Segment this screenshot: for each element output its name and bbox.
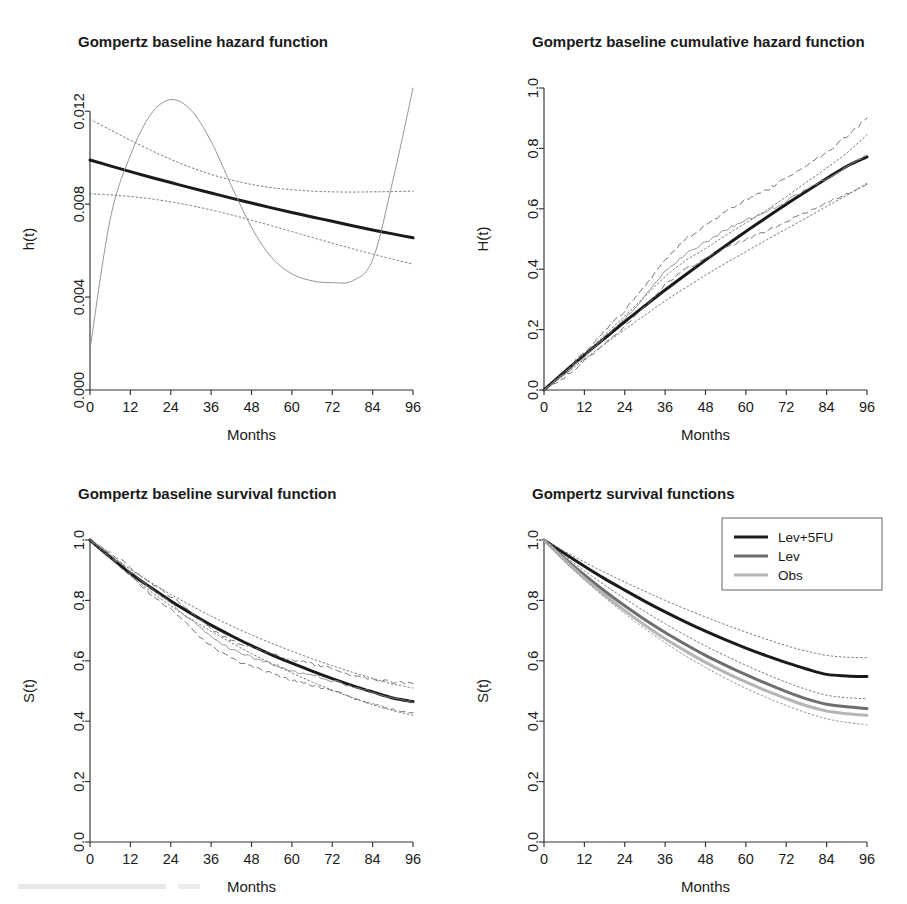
x-tick-label: 60 [738, 399, 754, 415]
y-tick-label: 0.8 [71, 590, 87, 610]
panel-survival-functions-svg: Gompertz survival functions0.00.20.40.60… [454, 452, 907, 904]
figure-canvas: Gompertz baseline hazard function0.0000.… [0, 0, 907, 904]
y-tick-label: 0.4 [71, 711, 87, 731]
x-tick-label: 36 [203, 399, 219, 415]
x-tick-label: 96 [405, 399, 421, 415]
x-tick-label: 12 [122, 399, 138, 415]
x-tick-label: 24 [163, 399, 179, 415]
series-line [90, 540, 413, 713]
x-tick-label: 72 [324, 399, 340, 415]
plot-area [90, 540, 413, 715]
x-tick-label: 24 [617, 851, 633, 867]
x-tick-label: 60 [738, 851, 754, 867]
legend-label: Lev+5FU [778, 530, 833, 545]
y-tick-label: 0.4 [525, 711, 541, 731]
panel-title: Gompertz baseline hazard function [78, 33, 328, 50]
x-tick-label: 72 [778, 399, 794, 415]
x-tick-label: 48 [243, 851, 259, 867]
x-tick-label: 48 [697, 399, 713, 415]
panel-title: Gompertz survival functions [532, 485, 735, 502]
series-line [544, 184, 867, 390]
y-axis-title: h(t) [20, 228, 37, 251]
legend-label: Lev [778, 549, 800, 564]
y-tick-label: 0.6 [71, 651, 87, 671]
x-tick-label: 12 [576, 399, 592, 415]
panel-hazard: Gompertz baseline hazard function0.0000.… [0, 0, 453, 452]
y-tick-label: 0.0 [525, 832, 541, 852]
x-tick-label: 36 [203, 851, 219, 867]
y-axis-title: S(t) [474, 679, 491, 703]
y-tick-label: 0.012 [71, 93, 87, 129]
chart-legend: Lev+5FULevObs [722, 518, 882, 590]
series-line [90, 540, 413, 703]
panel-hazard-svg: Gompertz baseline hazard function0.0000.… [0, 0, 453, 452]
x-tick-label: 84 [365, 399, 381, 415]
x-tick-label: 36 [657, 851, 673, 867]
panel-title: Gompertz baseline cumulative hazard func… [532, 33, 865, 50]
plot-area [544, 118, 867, 390]
x-axis-title: Months [681, 426, 730, 443]
y-tick-label: 0.0 [71, 832, 87, 852]
x-tick-label: 24 [163, 851, 179, 867]
scan-artifact-secondary [178, 884, 200, 889]
x-tick-label: 60 [284, 399, 300, 415]
y-tick-label: 0.000 [71, 372, 87, 408]
x-tick-label: 0 [540, 851, 548, 867]
series-line [90, 540, 413, 684]
x-tick-label: 0 [86, 399, 94, 415]
y-tick-label: 0.8 [525, 590, 541, 610]
y-tick-label: 0.6 [525, 651, 541, 671]
y-tick-label: 0.8 [525, 138, 541, 158]
y-tick-label: 1.0 [525, 530, 541, 550]
x-tick-label: 96 [859, 851, 875, 867]
x-tick-label: 96 [859, 399, 875, 415]
y-tick-label: 1.0 [71, 530, 87, 550]
x-axis-title: Months [681, 878, 730, 895]
x-tick-label: 0 [86, 851, 94, 867]
y-axis-title: H(t) [474, 227, 491, 252]
series-line [544, 183, 867, 390]
panel-cumulative-hazard-svg: Gompertz baseline cumulative hazard func… [454, 0, 907, 452]
panel-cumulative-hazard: Gompertz baseline cumulative hazard func… [454, 0, 907, 452]
x-tick-label: 84 [365, 851, 381, 867]
x-tick-label: 0 [540, 399, 548, 415]
y-axis-title: S(t) [20, 679, 37, 703]
x-tick-label: 36 [657, 399, 673, 415]
series-line [90, 160, 413, 238]
plot-area [90, 88, 413, 349]
series-line [90, 119, 413, 192]
y-tick-label: 0.2 [525, 320, 541, 340]
legend-label: Obs [778, 568, 803, 583]
y-tick-label: 1.0 [525, 78, 541, 98]
y-tick-label: 0.004 [71, 279, 87, 315]
x-tick-label: 12 [576, 851, 592, 867]
y-tick-label: 0.2 [525, 772, 541, 792]
x-tick-label: 48 [243, 399, 259, 415]
x-tick-label: 60 [284, 851, 300, 867]
scan-artifact [18, 884, 166, 889]
y-tick-label: 0.6 [525, 199, 541, 219]
x-axis-title: Months [227, 878, 276, 895]
series-line [90, 88, 413, 349]
x-tick-label: 84 [819, 851, 835, 867]
y-tick-label: 0.0 [525, 380, 541, 400]
x-tick-label: 72 [778, 851, 794, 867]
panel-baseline-survival: Gompertz baseline survival function0.00.… [0, 452, 453, 904]
x-axis-title: Months [227, 426, 276, 443]
y-tick-label: 0.008 [71, 186, 87, 222]
series-line [544, 135, 867, 390]
x-tick-label: 84 [819, 399, 835, 415]
x-tick-label: 24 [617, 399, 633, 415]
x-tick-label: 72 [324, 851, 340, 867]
y-tick-label: 0.2 [71, 772, 87, 792]
x-tick-label: 96 [405, 851, 421, 867]
y-tick-label: 0.4 [525, 259, 541, 279]
panel-title: Gompertz baseline survival function [78, 485, 336, 502]
panel-survival-functions: Gompertz survival functions0.00.20.40.60… [454, 452, 907, 904]
x-tick-label: 12 [122, 851, 138, 867]
x-tick-label: 48 [697, 851, 713, 867]
panel-baseline-survival-svg: Gompertz baseline survival function0.00.… [0, 452, 453, 904]
